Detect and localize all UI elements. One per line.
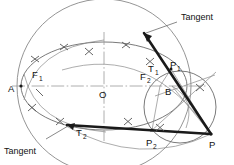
label-point-b: B bbox=[165, 86, 171, 97]
label-center-o: O bbox=[99, 89, 106, 100]
label-focus-1-subscript: 1 bbox=[39, 75, 43, 82]
label-tangent-point-1-subscript: 1 bbox=[155, 69, 159, 76]
tick-mark-f1-short bbox=[36, 89, 43, 96]
construction-arc-f1-lower bbox=[24, 74, 106, 132]
tick-mark-upper-right bbox=[122, 42, 130, 48]
label-focus-2-subscript: 2 bbox=[147, 77, 151, 84]
label-tangent-point-1-letter: T bbox=[148, 63, 154, 74]
label-aux-point-1-subscript: 1 bbox=[177, 65, 181, 72]
tick-mark-circle-right bbox=[196, 84, 204, 91]
label-aux-point-2-subscript: 2 bbox=[153, 143, 157, 150]
tangent-label-top: Tangent bbox=[181, 12, 214, 22]
ellipse-tangent-figure: Tangent Tangent A F 1 O F 2 B T 1 T 2 P … bbox=[0, 0, 234, 165]
tangent-upper-arrowhead bbox=[144, 33, 152, 42]
tangent-label-bottom: Tangent bbox=[4, 146, 37, 156]
tick-mark-lower-left bbox=[28, 104, 36, 111]
point-p2-dot bbox=[151, 129, 154, 132]
label-focus-1-letter: F bbox=[32, 69, 38, 80]
tick-mark-upper-mid-left bbox=[60, 44, 68, 50]
tick-mark-upper-center bbox=[85, 48, 93, 55]
tangent-top-leader-line bbox=[146, 22, 177, 33]
label-focus-2-letter: F bbox=[140, 71, 146, 82]
point-p-dot bbox=[209, 132, 212, 135]
label-focus-1: F 1 bbox=[32, 69, 43, 82]
label-external-point-p: P bbox=[209, 139, 215, 150]
ray-f2-p2 bbox=[152, 86, 160, 130]
figure-canvas: Tangent Tangent A F 1 O F 2 B T 1 T 2 P … bbox=[0, 0, 234, 165]
label-vertex-a: A bbox=[8, 83, 15, 94]
label-aux-point-2-letter: P bbox=[146, 137, 152, 148]
label-aux-point-1-letter: P bbox=[170, 59, 176, 70]
label-tangent-point-1: T 1 bbox=[148, 63, 159, 76]
tangent-bottom-leader-line bbox=[46, 126, 68, 139]
label-tangent-point-2-letter: T bbox=[76, 127, 82, 138]
tick-mark-lower-center bbox=[124, 118, 132, 125]
label-aux-point-2: P 2 bbox=[146, 137, 157, 150]
label-tangent-point-2-subscript: 2 bbox=[83, 133, 87, 140]
point-a-dot bbox=[19, 84, 22, 87]
